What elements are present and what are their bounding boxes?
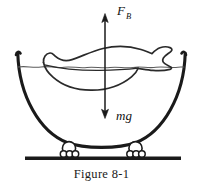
diagram-background bbox=[0, 0, 203, 183]
figure-caption: Figure 8-1 bbox=[74, 167, 129, 181]
right-support-roller-c bbox=[139, 151, 146, 158]
left-support-roller-c bbox=[72, 151, 79, 158]
weight-force-label: mg bbox=[116, 108, 132, 123]
buoyant-force-label: F bbox=[116, 3, 126, 18]
figure-container: F B mg Figure 8-1 bbox=[0, 0, 203, 183]
physics-diagram: F B mg Figure 8-1 bbox=[0, 0, 203, 183]
buoyant-force-subscript-label: B bbox=[126, 11, 131, 21]
